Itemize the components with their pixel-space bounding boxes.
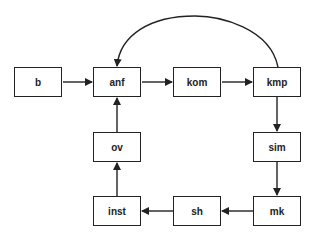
node-label: ov <box>111 142 123 153</box>
node-kmp: kmp <box>253 67 301 97</box>
node-label: sh <box>191 206 203 217</box>
node-anf: anf <box>93 67 141 97</box>
node-label: kmp <box>267 77 288 88</box>
node-sh: sh <box>173 196 221 226</box>
node-kom: kom <box>173 67 221 97</box>
node-label: sim <box>268 142 285 153</box>
node-mk: mk <box>253 196 301 226</box>
node-label: kom <box>187 77 208 88</box>
node-sim: sim <box>253 132 301 162</box>
node-label: anf <box>110 77 125 88</box>
node-label: mk <box>270 206 284 217</box>
node-ov: ov <box>93 132 141 162</box>
edge-kmp-anf-arc <box>117 16 278 67</box>
node-inst: inst <box>93 196 141 226</box>
node-label: inst <box>108 206 126 217</box>
node-label: b <box>35 77 41 88</box>
node-b: b <box>14 67 62 97</box>
